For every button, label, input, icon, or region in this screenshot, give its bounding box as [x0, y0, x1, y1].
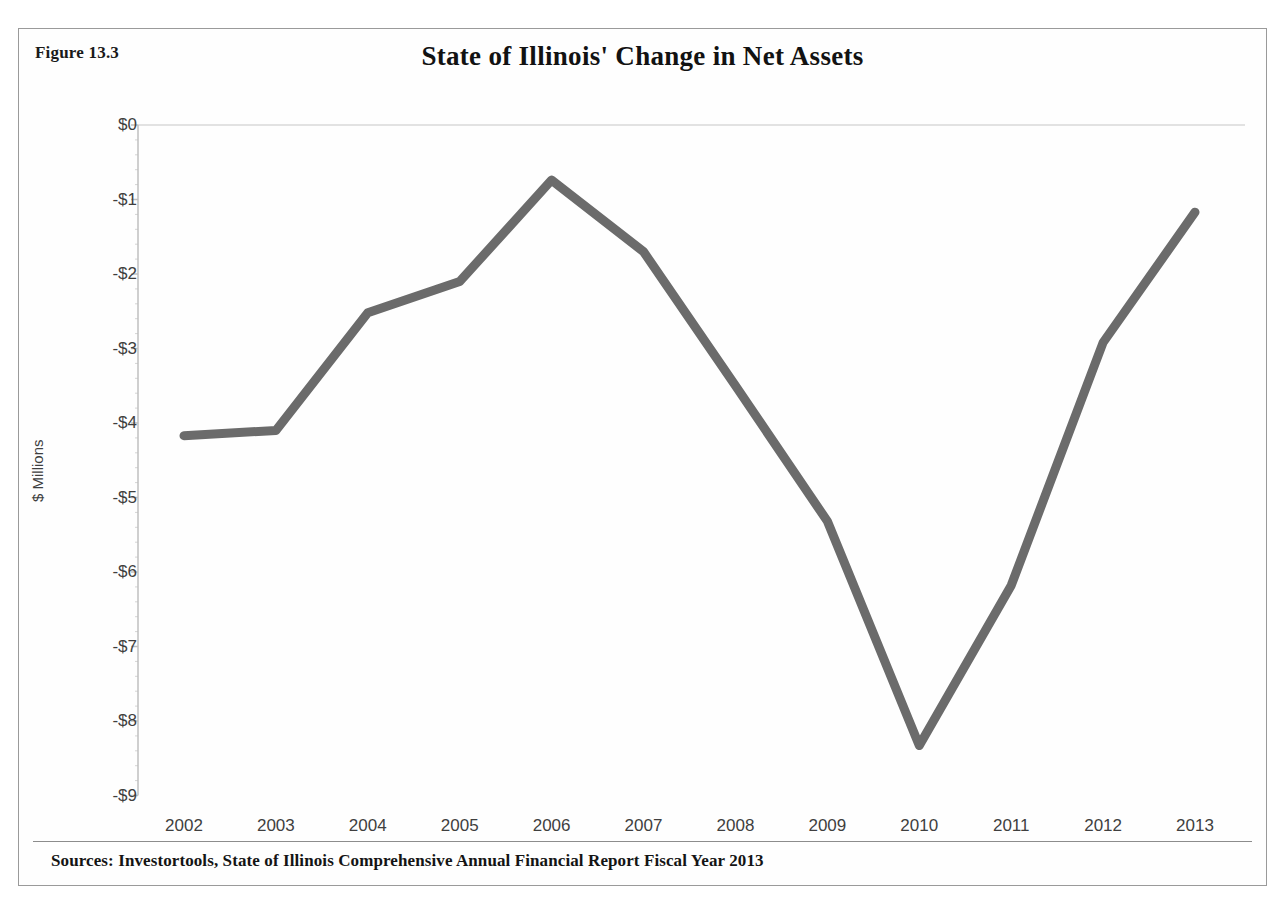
- x-axis-tick-labels: 2002200320042005200620072008200920102011…: [19, 29, 1268, 829]
- x-tick-label: 2004: [323, 816, 413, 836]
- x-tick-label: 2005: [415, 816, 505, 836]
- x-tick-label: 2013: [1150, 816, 1240, 836]
- source-note: Sources: Investortools, State of Illinoi…: [51, 851, 764, 871]
- x-tick-label: 2012: [1058, 816, 1148, 836]
- x-tick-label: 2003: [231, 816, 321, 836]
- chart-plot-area: $0-$1-$2-$3-$4-$5-$6-$7-$8-$9 2002200320…: [19, 29, 1268, 829]
- x-tick-label: 2002: [139, 816, 229, 836]
- y-axis-title: $ Millions: [29, 440, 46, 503]
- x-tick-label: 2007: [599, 816, 689, 836]
- x-tick-label: 2009: [782, 816, 872, 836]
- x-tick-label: 2008: [690, 816, 780, 836]
- x-tick-label: 2011: [966, 816, 1056, 836]
- x-tick-label: 2010: [874, 816, 964, 836]
- x-tick-label: 2006: [507, 816, 597, 836]
- figure-page: Figure 13.3 State of Illinois' Change in…: [18, 28, 1267, 886]
- source-divider: [33, 841, 1252, 842]
